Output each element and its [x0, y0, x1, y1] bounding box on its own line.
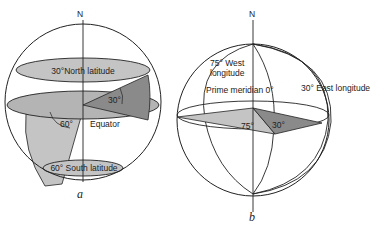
west-longitude-label-1: 75° West — [210, 58, 245, 68]
globe-a: N 30°North latitude 30° Equator 60° 60° … — [5, 9, 161, 201]
caption-a: a — [77, 187, 83, 201]
west-longitude-label-2: longitude — [210, 68, 245, 78]
west-angle-label: 75° — [241, 121, 254, 131]
south-angle-label: 60° — [60, 119, 73, 129]
east-angle-label: 30° — [272, 120, 285, 130]
prime-meridian-label: Prime meridian 0° — [206, 85, 274, 95]
north-pole-label-b: N — [249, 9, 255, 19]
south-latitude-label: 60° South latitude — [50, 163, 117, 173]
caption-b: b — [249, 210, 255, 224]
north-latitude-label: 30°North latitude — [51, 66, 115, 76]
equator-label: Equator — [90, 119, 120, 129]
north-pole-label-a: N — [77, 9, 83, 19]
globe-b: N 75° West longitude Prime meridian 0° 3… — [177, 9, 370, 224]
north-angle-label: 30° — [108, 95, 121, 105]
east-longitude-label: 30° East longitude — [301, 83, 370, 93]
globe-diagram: N 30°North latitude 30° Equator 60° 60° … — [0, 0, 384, 236]
